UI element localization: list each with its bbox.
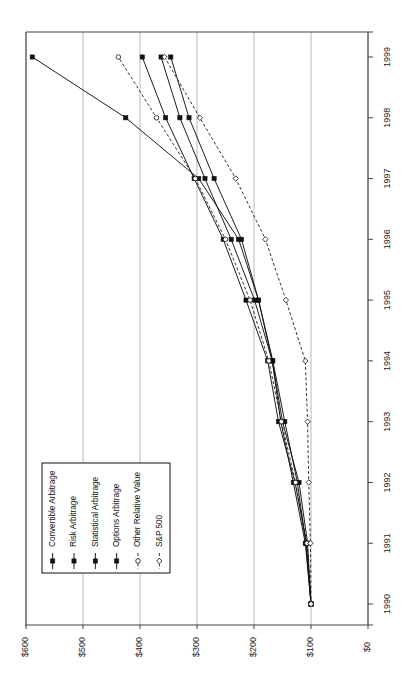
data-point-marker (293, 480, 298, 485)
legend-sample-marker (93, 559, 97, 563)
series-4 (169, 55, 313, 606)
data-point-marker (263, 237, 268, 242)
data-point-marker (229, 237, 233, 241)
legend-sample-marker (51, 559, 55, 563)
time-tick-label: 1999 (382, 47, 392, 67)
data-point-marker (116, 55, 121, 60)
data-point-marker (193, 176, 198, 181)
legend-label: Other Relative Value (133, 472, 142, 547)
data-point-marker (256, 298, 260, 302)
rotated-line-chart: 1990199119921993199419951996199719981999… (0, 0, 407, 674)
data-point-marker (279, 419, 284, 424)
legend: Convertible ArbitrageRisk ArbitrageStati… (42, 463, 170, 573)
time-tick-label: 1991 (382, 533, 392, 553)
data-point-marker (154, 115, 159, 120)
value-axis-ticks: $0$100$200$300$400$500$600 (20, 625, 372, 657)
legend-box (42, 463, 170, 573)
time-tick-label: 1995 (382, 290, 392, 310)
value-tick-label: $0 (362, 642, 372, 652)
value-tick-label: $300 (191, 637, 201, 657)
series-line (161, 57, 311, 604)
data-point-marker (248, 298, 253, 303)
data-point-marker (283, 297, 288, 302)
legend-label: S&P 500 (155, 514, 164, 547)
time-tick-label: 1996 (382, 229, 392, 249)
chart-container: 1990199119921993199419951996199719981999… (0, 0, 407, 674)
legend-label: Risk Arbitrage (69, 496, 78, 547)
time-tick-label: 1992 (382, 472, 392, 492)
data-point-marker (267, 359, 272, 364)
legend-sample-marker (136, 559, 141, 564)
series-3 (159, 55, 313, 606)
time-tick-label: 1994 (382, 351, 392, 371)
value-tick-label: $100 (305, 637, 315, 657)
data-point-marker (124, 116, 128, 120)
value-tick-label: $400 (134, 637, 144, 657)
series-line (165, 57, 311, 604)
data-point-marker (212, 176, 216, 180)
time-axis-ticks: 1990199119921993199419951996199719981999 (368, 47, 392, 614)
legend-sample-marker (115, 559, 119, 563)
data-point-marker (223, 237, 228, 242)
value-tick-label: $200 (248, 637, 258, 657)
data-point-marker (239, 237, 243, 241)
data-point-marker (164, 116, 168, 120)
series-6 (162, 54, 314, 606)
data-point-marker (30, 55, 34, 59)
time-tick-label: 1990 (382, 594, 392, 614)
time-tick-label: 1993 (382, 412, 392, 432)
time-tick-label: 1997 (382, 169, 392, 189)
data-point-marker (169, 55, 173, 59)
time-tick-label: 1998 (382, 108, 392, 128)
legend-sample-marker (72, 559, 76, 563)
series-line (171, 57, 311, 604)
data-point-marker (306, 480, 311, 485)
value-tick-label: $600 (20, 637, 30, 657)
data-point-marker (233, 176, 238, 181)
data-point-marker (203, 176, 207, 180)
value-tick-label: $500 (77, 637, 87, 657)
data-point-marker (178, 116, 182, 120)
data-point-marker (305, 419, 310, 424)
legend-label: Convertible Arbitrage (48, 470, 57, 547)
legend-label: Options Arbitrage (112, 483, 121, 547)
data-point-marker (197, 115, 202, 120)
legend-label: Statistical Arbitrage (91, 476, 100, 547)
data-point-marker (140, 55, 144, 59)
data-point-marker (252, 298, 256, 302)
data-point-marker (187, 116, 191, 120)
data-point-marker (303, 358, 308, 363)
